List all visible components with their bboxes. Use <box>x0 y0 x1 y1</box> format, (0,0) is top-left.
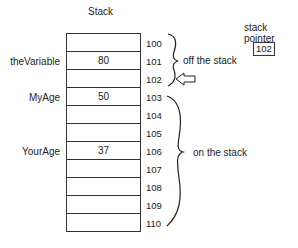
off-the-stack-label: off the stack <box>183 55 237 66</box>
stack-pointer-label: stack pointer <box>244 22 298 44</box>
stack-pointer-arrow-icon <box>176 73 195 85</box>
on-stack-brace-icon <box>167 96 183 226</box>
stack-pointer-value: 102 <box>253 42 275 56</box>
on-the-stack-label: on the stack <box>193 147 247 158</box>
